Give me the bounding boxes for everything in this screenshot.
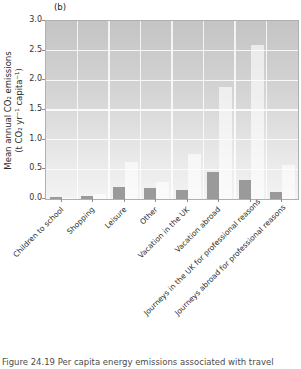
y-tick-mark [42, 139, 45, 140]
x-tick-mark [92, 199, 93, 202]
bar-light-1 [93, 194, 106, 199]
bar-light-7 [282, 165, 295, 199]
y-tick-mark [42, 168, 45, 169]
y-tick-mark [42, 109, 45, 110]
bar-light-3 [156, 182, 169, 199]
y-tick-mark [42, 20, 45, 21]
bar-dark-3 [144, 188, 156, 199]
x-tick-mark [218, 199, 219, 202]
bar-dark-4 [176, 190, 188, 199]
y-tick-label: 3.0 [20, 16, 42, 24]
bar-dark-5 [207, 172, 219, 199]
panel-label: (b) [54, 2, 66, 12]
y-tick-label: 1.0 [20, 135, 42, 143]
x-tick-mark [187, 199, 188, 202]
y-tick-mark [42, 198, 45, 199]
plot-area [45, 20, 299, 200]
y-tick-mark [42, 79, 45, 80]
bar-light-5 [219, 87, 232, 199]
bar-light-4 [188, 154, 201, 199]
y-tick-label: 1.5 [20, 105, 42, 113]
bar-light-6 [251, 45, 264, 199]
vertical-gridline [203, 21, 205, 199]
y-tick-label: 2.0 [20, 75, 42, 83]
vertical-gridline [108, 21, 110, 199]
x-tick-mark [61, 199, 62, 202]
x-tick-mark [281, 199, 282, 202]
bar-light-0 [62, 198, 75, 199]
vertical-gridline [234, 21, 236, 199]
y-axis-label-line1: Mean annual CO₂ emissions [3, 26, 14, 196]
figure-caption: Figure 24.19 Per capita energy emissions… [2, 357, 299, 368]
x-tick-mark [155, 199, 156, 202]
x-tick-mark [124, 199, 125, 202]
y-tick-label: 0.5 [20, 164, 42, 172]
y-tick-label: 0.0 [20, 194, 42, 202]
vertical-gridline [77, 21, 79, 199]
figure-panel: (b) Mean annual CO₂ emissions (t CO₂ yr⁻… [0, 0, 301, 369]
y-tick-mark [42, 50, 45, 51]
bar-dark-2 [113, 187, 125, 199]
vertical-gridline [140, 21, 142, 199]
bar-dark-7 [270, 192, 282, 199]
vertical-gridline [171, 21, 173, 199]
bar-dark-6 [239, 180, 251, 199]
vertical-gridline [266, 21, 268, 199]
bar-light-2 [125, 162, 138, 199]
y-tick-label: 2.5 [20, 46, 42, 54]
